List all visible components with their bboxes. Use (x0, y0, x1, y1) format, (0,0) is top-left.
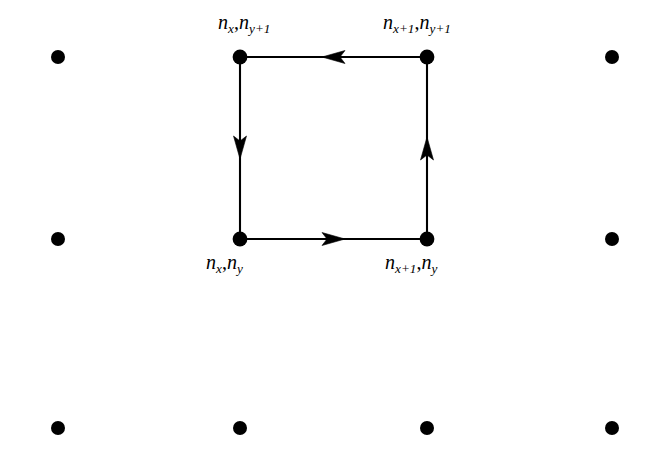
lattice-dot-r1-c3 (420, 50, 435, 65)
label-br-var2: n (421, 251, 431, 273)
label-br-var1: n (385, 251, 395, 273)
lattice-dot-r3-c2 (233, 421, 247, 435)
lattice-dot-r3-c3 (420, 421, 434, 435)
label-tl-sub2: y+1 (249, 21, 270, 36)
lattice-dot-r3-c4 (605, 421, 619, 435)
label-tl-var2: n (239, 11, 249, 33)
label-bl-var1: n (206, 251, 216, 273)
lattice-dot-r1-c1 (51, 50, 65, 64)
site-label-bottom-left: nx,ny (206, 252, 243, 275)
figure-canvas (0, 0, 652, 449)
lattice-dot-r2-c3 (420, 232, 435, 247)
lattice-dot-r2-c1 (51, 232, 65, 246)
lattice-dot-r3-c1 (51, 421, 65, 435)
label-tr-var1: n (383, 11, 393, 33)
loop-arrowheads (234, 51, 434, 246)
lattice-dot-r2-c4 (605, 232, 619, 246)
label-tl-var1: n (218, 11, 228, 33)
label-tr-var2: n (419, 11, 429, 33)
lattice-dot-r2-c2 (233, 232, 248, 247)
lattice-dots (51, 50, 619, 435)
label-bl-var2: n (227, 251, 237, 273)
site-label-bottom-right: nx+1,ny (385, 252, 437, 275)
label-br-sub2: y (432, 261, 438, 276)
label-br-sub1: x+1 (395, 261, 416, 276)
site-label-top-right: nx+1,ny+1 (383, 12, 451, 35)
label-tr-sub1: x+1 (393, 21, 414, 36)
lattice-dot-r1-c2 (233, 50, 248, 65)
label-tr-sub2: y+1 (430, 21, 451, 36)
label-bl-sub2: y (237, 261, 243, 276)
lattice-dot-r1-c4 (605, 50, 619, 64)
lattice-plaquette-figure: nx,ny+1 nx+1,ny+1 nx,ny nx+1,ny (0, 0, 652, 449)
site-label-top-left: nx,ny+1 (218, 12, 270, 35)
loop-edges (240, 57, 427, 239)
